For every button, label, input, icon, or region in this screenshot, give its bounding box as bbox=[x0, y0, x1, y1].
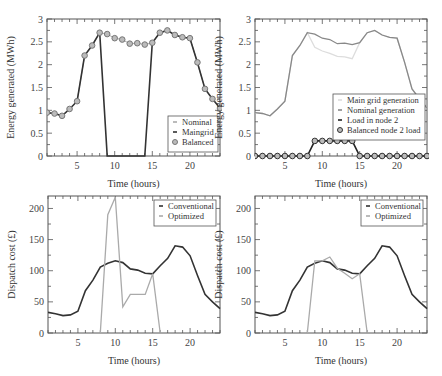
legend-entry: Balanced bbox=[182, 137, 214, 147]
series-marker bbox=[252, 153, 258, 159]
legend-entry: Conventional bbox=[168, 201, 214, 211]
legend: NominalMaingridBalanced bbox=[168, 116, 218, 152]
y-tick-label: 1.5 bbox=[239, 82, 252, 93]
series-marker bbox=[104, 31, 110, 37]
series-marker bbox=[282, 153, 288, 159]
y-tick-label: 50 bbox=[34, 296, 44, 307]
series-line bbox=[47, 30, 220, 115]
y-tick-label: 2.5 bbox=[31, 36, 44, 47]
legend: ConventionalOptimized bbox=[361, 200, 423, 226]
y-tick-label: 3 bbox=[246, 14, 251, 25]
x-axis-label: Time (hours) bbox=[315, 355, 367, 367]
legend: Main grid generationNominal generationLo… bbox=[333, 94, 425, 140]
y-tick-label: 0 bbox=[38, 151, 43, 162]
chart-energy-maingrid: 510152000.511.522.53Time (hours)Energy g… bbox=[5, 14, 223, 191]
y-axis-label: Energy generated (MWh) bbox=[213, 36, 225, 139]
y-tick-label: 1 bbox=[38, 105, 43, 116]
y-tick-label: 150 bbox=[236, 234, 251, 245]
x-tick-label: 10 bbox=[110, 160, 120, 171]
y-tick-label: 100 bbox=[29, 265, 44, 276]
legend-entry: Nominal bbox=[182, 117, 212, 127]
legend-entry: Optimized bbox=[375, 211, 412, 221]
series-marker bbox=[357, 153, 363, 159]
y-tick-label: 150 bbox=[29, 234, 44, 245]
series-marker bbox=[260, 153, 266, 159]
figure: 510152000.511.522.53Time (hours)Energy g… bbox=[0, 0, 442, 376]
x-tick-label: 5 bbox=[75, 337, 80, 348]
series-marker bbox=[142, 42, 148, 48]
series-marker bbox=[74, 98, 80, 104]
y-tick-label: 0 bbox=[246, 151, 251, 162]
series-marker bbox=[202, 86, 208, 92]
series-line bbox=[255, 246, 427, 316]
chart-dispatch-cost-1: 5101520050100150200Time (hours)Dispatch … bbox=[6, 196, 220, 367]
legend-entry: Maingrid bbox=[182, 127, 214, 137]
legend-entry: Balanced node 2 load bbox=[347, 125, 421, 135]
x-axis-label: Time (hours) bbox=[315, 178, 367, 190]
x-tick-label: 10 bbox=[317, 160, 327, 171]
x-tick-label: 20 bbox=[185, 337, 195, 348]
y-tick-label: 0 bbox=[246, 328, 251, 339]
x-tick-label: 5 bbox=[75, 160, 80, 171]
series-marker bbox=[320, 138, 326, 144]
legend-entry: Nominal generation bbox=[347, 105, 415, 115]
y-tick-label: 100 bbox=[236, 265, 251, 276]
y-tick-label: 2.5 bbox=[239, 36, 252, 47]
series-marker bbox=[165, 28, 171, 34]
legend-entry: Optimized bbox=[168, 211, 205, 221]
series-marker bbox=[134, 40, 140, 46]
x-tick-label: 20 bbox=[392, 160, 402, 171]
y-tick-label: 200 bbox=[236, 203, 251, 214]
x-tick-label: 15 bbox=[355, 337, 365, 348]
series-marker bbox=[150, 40, 156, 46]
series-marker bbox=[195, 60, 201, 66]
series-marker bbox=[44, 110, 50, 116]
series-line bbox=[307, 257, 367, 333]
series-marker bbox=[119, 37, 125, 43]
chart-dispatch-cost-2: 5101520050100150200Time (hours)Dispatch … bbox=[213, 196, 427, 367]
y-tick-label: 50 bbox=[241, 296, 251, 307]
legend-marker-icon bbox=[338, 128, 343, 133]
series-marker bbox=[379, 153, 385, 159]
x-tick-label: 20 bbox=[185, 160, 195, 171]
legend-entry: Load in node 2 bbox=[347, 115, 398, 125]
series-marker bbox=[67, 106, 73, 112]
y-tick-label: 200 bbox=[29, 203, 44, 214]
y-tick-label: 1 bbox=[246, 105, 251, 116]
series-marker bbox=[372, 153, 378, 159]
series-marker bbox=[424, 153, 430, 159]
x-tick-label: 15 bbox=[147, 160, 157, 171]
series-marker bbox=[297, 153, 303, 159]
y-tick-label: 0.5 bbox=[31, 128, 44, 139]
x-tick-label: 20 bbox=[392, 337, 402, 348]
y-tick-label: 1.5 bbox=[31, 82, 44, 93]
series-line bbox=[48, 246, 220, 316]
x-axis-label: Time (hours) bbox=[108, 355, 160, 367]
series-marker bbox=[364, 153, 370, 159]
y-tick-label: 2 bbox=[246, 59, 251, 70]
series-marker bbox=[59, 113, 65, 119]
legend: ConventionalOptimized bbox=[154, 200, 216, 226]
y-axis-label: Dispatch cost (£) bbox=[6, 230, 18, 298]
x-tick-label: 5 bbox=[282, 160, 287, 171]
x-tick-label: 10 bbox=[317, 337, 327, 348]
y-axis-label: Energy generated (MWh) bbox=[5, 36, 17, 139]
series-marker bbox=[387, 153, 393, 159]
x-tick-label: 15 bbox=[148, 337, 158, 348]
series-marker bbox=[312, 138, 318, 144]
x-tick-label: 15 bbox=[355, 160, 365, 171]
legend-entry: Conventional bbox=[375, 201, 421, 211]
series-marker bbox=[127, 41, 133, 47]
x-tick-label: 5 bbox=[282, 337, 287, 348]
series-marker bbox=[402, 153, 408, 159]
series-marker bbox=[327, 138, 333, 144]
series-marker bbox=[290, 153, 296, 159]
series-marker bbox=[305, 153, 311, 159]
series-marker bbox=[409, 153, 415, 159]
series-marker bbox=[180, 34, 186, 40]
series-marker bbox=[187, 35, 193, 41]
x-axis-label: Time (hours) bbox=[107, 178, 159, 190]
series-marker bbox=[417, 153, 423, 159]
series-marker bbox=[275, 153, 281, 159]
x-tick-label: 10 bbox=[110, 337, 120, 348]
